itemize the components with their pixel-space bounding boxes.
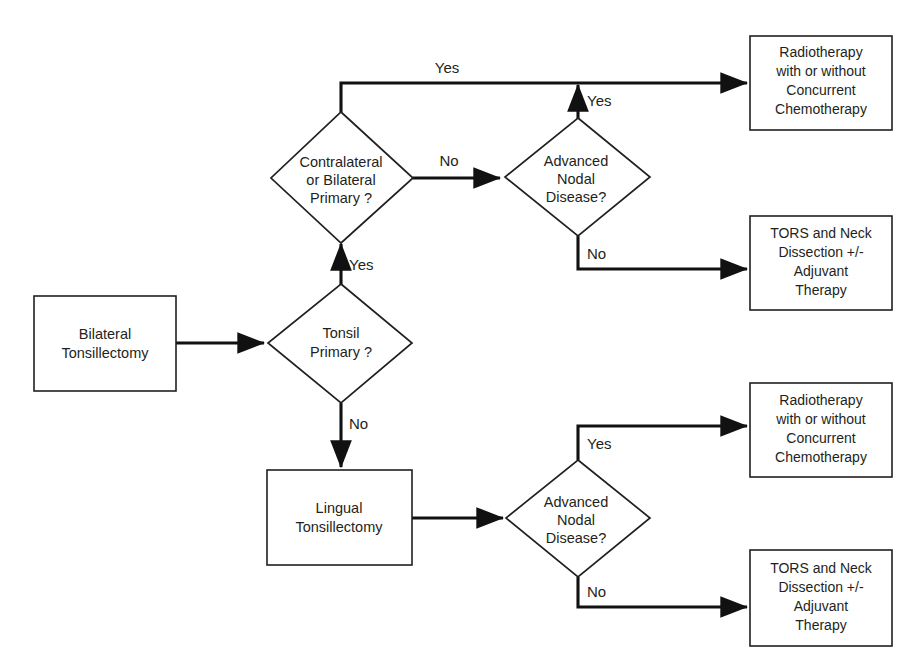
node-label-line: Concurrent — [786, 430, 855, 446]
flowchart-svg: Contralateral or Bilateral Primary ? Adv… — [0, 0, 922, 660]
node-label-line: Advanced — [544, 494, 609, 510]
node-label-line: Bilateral — [79, 326, 131, 342]
flowchart-canvas: Contralateral or Bilateral Primary ? Adv… — [0, 0, 922, 660]
edge-label-nodal-top-yes: Yes — [587, 92, 611, 109]
node-bilateral-tonsillectomy[interactable]: Bilateral Tonsillectomy — [34, 296, 176, 391]
node-label-line: Concurrent — [786, 82, 855, 98]
node-label-line: TORS and Neck — [770, 225, 873, 241]
node-tonsil-primary[interactable]: Tonsil Primary ? — [268, 284, 412, 403]
node-label-line: Tonsillectomy — [295, 519, 383, 535]
edge-label-tonsil-yes: Yes — [349, 256, 373, 273]
node-label-line: Primary ? — [310, 344, 372, 360]
node-label-line: Tonsillectomy — [61, 345, 149, 361]
node-tors-neck-dissection-bottom[interactable]: TORS and Neck Dissection +/- Adjuvant Th… — [750, 550, 892, 646]
node-label-line: Adjuvant — [794, 598, 849, 614]
node-label-line: Tonsil — [322, 325, 359, 341]
node-advanced-nodal-disease-top[interactable]: Advanced Nodal Disease? — [505, 118, 650, 236]
edge-label-nodal-top-no: No — [587, 245, 606, 262]
node-label-line: Advanced — [544, 153, 609, 169]
edge-label-contralateral-no: No — [439, 152, 458, 169]
edge-label-nodal-bottom-no: No — [587, 583, 606, 600]
node-radiotherapy-top[interactable]: Radiotherapy with or without Concurrent … — [750, 36, 892, 130]
node-tors-neck-dissection-top[interactable]: TORS and Neck Dissection +/- Adjuvant Th… — [750, 216, 892, 310]
node-lingual-tonsillectomy[interactable]: Lingual Tonsillectomy — [267, 470, 412, 565]
node-label-line: Disease? — [546, 189, 606, 205]
node-label-line: Dissection +/- — [778, 579, 864, 595]
node-label-line: Nodal — [557, 171, 595, 187]
node-label-line: Lingual — [316, 500, 363, 516]
node-advanced-nodal-disease-bottom[interactable]: Advanced Nodal Disease? — [506, 460, 650, 577]
node-label-line: Nodal — [557, 512, 595, 528]
node-label-line: or Bilateral — [306, 172, 375, 188]
node-label-line: Disease? — [546, 530, 606, 546]
node-label-line: Adjuvant — [794, 263, 849, 279]
node-label-line: with or without — [775, 63, 866, 79]
node-label-line: Dissection +/- — [778, 244, 864, 260]
node-radiotherapy-bottom[interactable]: Radiotherapy with or without Concurrent … — [750, 383, 892, 477]
rect-shape-bilateral-tonsillectomy — [34, 296, 176, 391]
node-contralateral-bilateral-primary[interactable]: Contralateral or Bilateral Primary ? — [271, 112, 413, 243]
edge-contralateral-yes — [341, 83, 747, 112]
node-label-line: Radiotherapy — [779, 392, 862, 408]
node-label-line: Chemotherapy — [775, 449, 867, 465]
node-label-line: with or without — [775, 411, 866, 427]
node-label-line: Therapy — [795, 282, 846, 298]
edge-label-nodal-bottom-yes: Yes — [587, 435, 611, 452]
node-label-line: Chemotherapy — [775, 101, 867, 117]
rect-shape-lingual-tonsillectomy — [267, 470, 412, 565]
edge-label-contralateral-yes: Yes — [435, 59, 459, 76]
node-label-line: TORS and Neck — [770, 560, 873, 576]
node-label-line: Therapy — [795, 617, 846, 633]
node-label-line: Primary ? — [310, 190, 372, 206]
edge-label-tonsil-no: No — [349, 415, 368, 432]
node-label-line: Contralateral — [299, 154, 382, 170]
node-label-line: Radiotherapy — [779, 44, 862, 60]
